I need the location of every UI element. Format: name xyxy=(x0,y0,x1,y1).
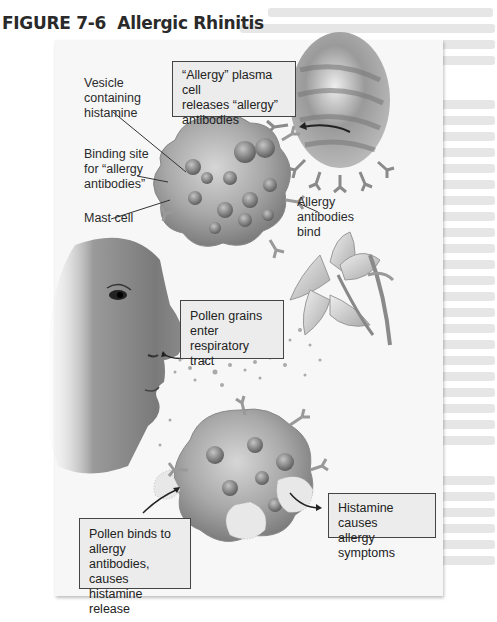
label-vesicle: Vesicle containing histamine xyxy=(84,76,141,121)
label-line: histamine xyxy=(84,106,141,121)
callout-line: Pollen binds to xyxy=(89,527,181,542)
label-allergy-antibodies-bind: Allergy antibodies bind xyxy=(297,195,354,240)
callout-line: tract xyxy=(190,354,274,369)
callout-line: allergy symptoms xyxy=(338,531,426,561)
callout-line: Histamine causes xyxy=(338,501,426,531)
callout-line: enter respiratory xyxy=(190,324,274,354)
callout-line: allergy antibodies, xyxy=(89,542,181,572)
callout-pollen-binds: Pollen binds to allergy antibodies, caus… xyxy=(79,518,191,589)
callout-line: causes histamine xyxy=(89,572,181,602)
callout-line: antibodies xyxy=(182,113,286,128)
label-line: Vesicle xyxy=(84,76,141,91)
callout-line: releases “allergy” xyxy=(182,98,286,113)
label-line: Binding site xyxy=(84,147,149,162)
label-mast-cell: Mast cell xyxy=(84,211,133,226)
callout-plasma-cell: “Allergy” plasma cell releases “allergy”… xyxy=(172,61,296,117)
callout-pollen-enter: Pollen grains enter respiratory tract xyxy=(180,300,284,359)
label-line: bind xyxy=(297,225,354,240)
label-line: antibodies” xyxy=(84,177,149,192)
label-line: for “allergy xyxy=(84,162,149,177)
label-line: containing xyxy=(84,91,141,106)
lily-flower xyxy=(290,232,393,345)
face-profile xyxy=(45,238,200,474)
label-line: antibodies xyxy=(297,210,354,225)
label-binding-site: Binding site for “allergy antibodies” xyxy=(84,147,149,192)
label-line: Allergy xyxy=(297,195,354,210)
callout-histamine-causes: Histamine causes allergy symptoms xyxy=(328,493,436,538)
callout-line: release xyxy=(89,602,181,617)
callout-line: Pollen grains xyxy=(190,309,274,324)
callout-line: “Allergy” plasma cell xyxy=(182,68,286,98)
